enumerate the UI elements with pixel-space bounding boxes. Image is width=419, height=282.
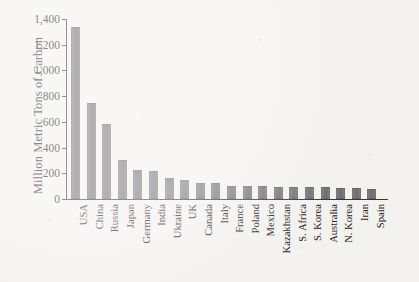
bar-india bbox=[149, 171, 158, 199]
x-axis-label-uk: UK bbox=[188, 204, 199, 219]
bar-poland bbox=[243, 186, 252, 199]
bar-france bbox=[227, 186, 236, 200]
y-tick-mark bbox=[62, 199, 66, 200]
x-axis-label-russia: Russia bbox=[110, 204, 121, 232]
bar-russia bbox=[102, 124, 111, 199]
bars-layer bbox=[67, 14, 396, 199]
x-axis-label-italy: Italy bbox=[220, 204, 231, 223]
bar-australia bbox=[321, 187, 330, 199]
bar-ukraine bbox=[165, 178, 174, 199]
x-axis-label-s-africa: S. Africa bbox=[298, 204, 309, 242]
y-tick-label: 200 bbox=[43, 167, 60, 179]
x-axis-label-australia: Australia bbox=[329, 204, 340, 243]
x-axis-label-india: India bbox=[157, 204, 168, 226]
bar-mexico bbox=[258, 186, 267, 199]
bar-germany bbox=[133, 170, 142, 199]
bar-canada bbox=[196, 183, 205, 199]
x-axis-label-china: China bbox=[95, 204, 106, 229]
x-axis-label-usa: USA bbox=[79, 204, 90, 225]
bar-spain bbox=[367, 189, 376, 199]
x-axis-label-iran: Iran bbox=[360, 204, 371, 221]
bar-chart: Million Metric Tons of Carbon 0200400600… bbox=[0, 0, 419, 282]
y-tick-label: 0 bbox=[54, 193, 60, 205]
bar-n-korea bbox=[336, 188, 345, 199]
y-tick-label: 1,000 bbox=[34, 64, 60, 76]
bar-italy bbox=[211, 183, 220, 199]
x-axis-label-spain: Spain bbox=[376, 204, 387, 228]
y-tick-mark bbox=[62, 122, 66, 123]
x-axis-label-mexico: Mexico bbox=[266, 204, 277, 236]
y-tick-label: 1,200 bbox=[34, 39, 60, 51]
x-axis-label-canada: Canada bbox=[204, 204, 215, 236]
bar-uk bbox=[180, 180, 189, 199]
bar-usa bbox=[71, 27, 80, 199]
x-axis-label-germany: Germany bbox=[142, 204, 153, 243]
x-axis-label-france: France bbox=[235, 204, 246, 233]
x-axis-label-ukraine: Ukraine bbox=[173, 204, 184, 238]
y-tick-mark bbox=[62, 45, 66, 46]
y-tick-label: 400 bbox=[43, 142, 60, 154]
y-tick-mark bbox=[62, 148, 66, 149]
bar-china bbox=[87, 103, 96, 199]
x-axis-label-s-korea: S. Korea bbox=[313, 204, 324, 241]
bar-japan bbox=[118, 160, 127, 199]
y-tick-mark bbox=[62, 19, 66, 20]
x-axis-label-kazakhstan: Kazakhstan bbox=[282, 204, 293, 253]
plot-area: 02004006008001,0001,2001,400 USAChinaRus… bbox=[66, 14, 396, 199]
y-tick-label: 600 bbox=[43, 116, 60, 128]
x-axis-line bbox=[66, 199, 388, 200]
bar-kazakhstan bbox=[274, 187, 283, 199]
x-axis-label-japan: Japan bbox=[126, 204, 137, 228]
bar-iran bbox=[352, 188, 361, 199]
bar-s-africa bbox=[289, 187, 298, 199]
y-tick-mark bbox=[62, 96, 66, 97]
y-tick-mark bbox=[62, 70, 66, 71]
x-axis-label-n-korea: N. Korea bbox=[344, 204, 355, 243]
y-tick-label: 1,400 bbox=[34, 13, 60, 25]
y-tick-label: 800 bbox=[43, 90, 60, 102]
bar-s-korea bbox=[305, 187, 314, 199]
x-axis-label-poland: Poland bbox=[251, 204, 262, 233]
y-tick-mark bbox=[62, 173, 66, 174]
